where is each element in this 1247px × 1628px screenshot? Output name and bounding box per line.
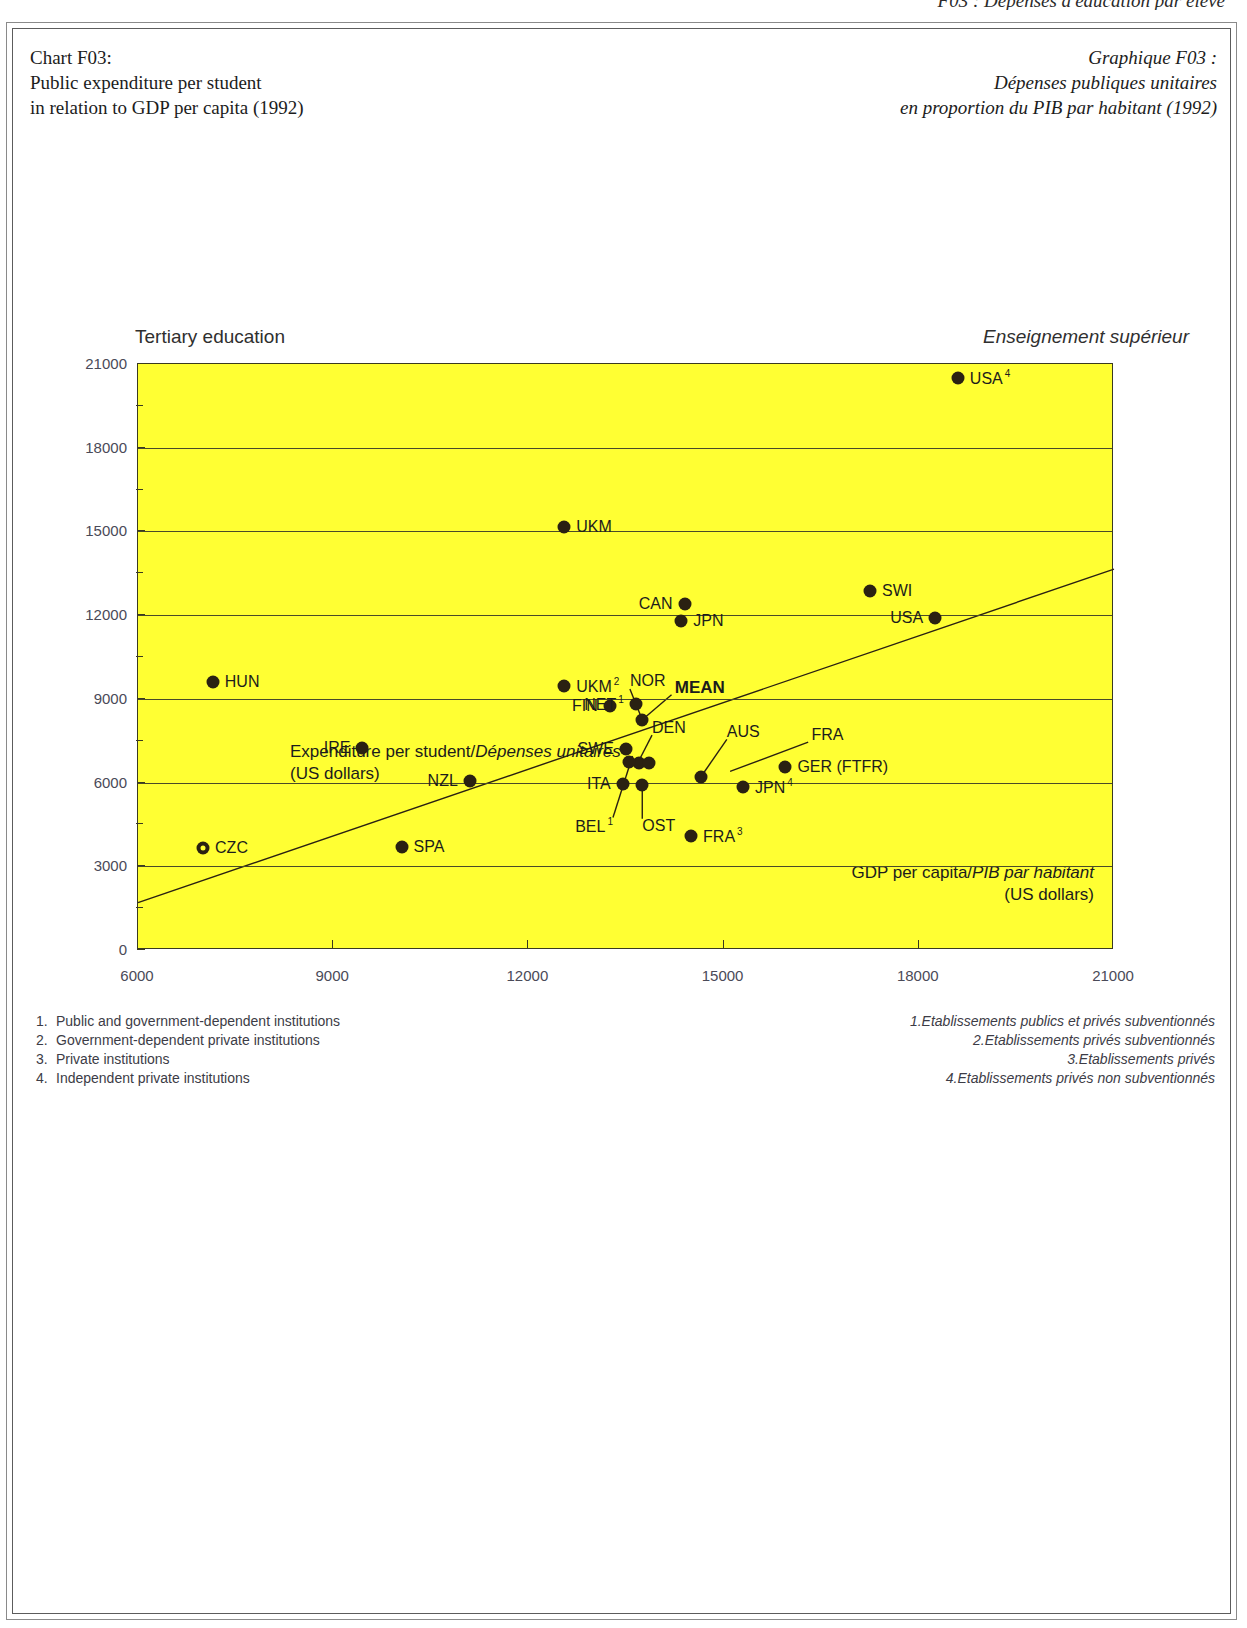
gridline-y-9000 — [138, 699, 1112, 700]
data-label-fra: FRA — [811, 726, 843, 744]
footnote-text: Government-dependent private institution… — [56, 1032, 320, 1048]
x-axis-tick-label-6000: 6000 — [120, 967, 153, 984]
y-axis-tick-6000 — [137, 782, 145, 783]
data-label-usa-4: USA4 — [970, 368, 1010, 387]
x-axis-tick-label-18000: 18000 — [897, 967, 939, 984]
footnote-number: 1. — [902, 1012, 922, 1031]
y-axis-minor-tick-13500 — [136, 572, 143, 573]
page-root: F03 : Dépenses d'éducation par élève Cha… — [0, 0, 1247, 1628]
x-axis-tick-9000 — [332, 940, 333, 949]
chart-title-fr-line-2: Dépenses publiques unitaires — [900, 70, 1217, 95]
data-label-nzl: NZL — [428, 772, 458, 790]
footnote-text: Etablissements privés non subventionnés — [957, 1070, 1215, 1086]
footnote-text: Independent private institutions — [56, 1070, 250, 1086]
data-point-ire — [356, 741, 369, 754]
chart-title-en-line-1: Chart F03: — [30, 45, 304, 70]
data-label-mean: MEAN — [675, 678, 725, 698]
data-point-jpn-4 — [737, 780, 750, 793]
data-label-czc: CZC — [215, 839, 248, 857]
footnotes-english: 1.Public and government-dependent instit… — [36, 1012, 340, 1088]
data-label-ukm-2: UKM2 — [576, 677, 619, 696]
data-label-nor: NOR — [630, 672, 666, 690]
data-label-ger-ftfr-: GER (FTFR) — [797, 758, 888, 776]
data-point-bel-1 — [623, 755, 636, 768]
footnote-item: 1.Public and government-dependent instit… — [36, 1012, 340, 1031]
data-label-ire: IRE — [324, 739, 351, 757]
footnote-item: 2.Government-dependent private instituti… — [36, 1031, 340, 1050]
data-label-swe: SWE — [578, 740, 614, 758]
chart-title-fr-line-3: en proportion du PIB par habitant (1992) — [900, 95, 1217, 120]
data-label-aus: AUS — [727, 723, 760, 741]
data-point-aus — [642, 757, 655, 770]
data-point-can — [678, 597, 691, 610]
y-axis-tick-0 — [137, 949, 145, 950]
y-axis-tick-15000 — [137, 530, 145, 531]
footnote-number: 2. — [965, 1031, 985, 1050]
x-axis-tick-label-15000: 15000 — [702, 967, 744, 984]
footnote-text: Private institutions — [56, 1051, 170, 1067]
chart-title-french: Graphique F03 : Dépenses publiques unita… — [900, 45, 1217, 120]
x-axis-caption: GDP per capita/PIB par habitant (US doll… — [851, 862, 1094, 906]
data-point-ukm — [558, 521, 571, 534]
data-point-fra — [694, 770, 707, 783]
footnote-number: 4. — [937, 1069, 957, 1088]
data-point-jpn — [675, 614, 688, 627]
data-label-ita: ITA — [587, 775, 611, 793]
x-axis-tick-15000 — [723, 940, 724, 949]
x-axis-tick-12000 — [527, 940, 528, 949]
data-point-fra-3 — [685, 829, 698, 842]
data-point-nzl — [463, 775, 476, 788]
data-point-ger-ftfr- — [779, 761, 792, 774]
running-head: F03 : Dépenses d'éducation par élève — [0, 0, 1247, 10]
gridline-y-18000 — [138, 448, 1112, 449]
x-axis-caption-units: (US dollars) — [851, 884, 1094, 906]
gridline-y-3000 — [138, 866, 1112, 867]
y-axis-minor-tick-16500 — [136, 489, 143, 490]
y-axis-minor-tick-10500 — [136, 656, 143, 657]
footnote-text: Public and government-dependent institut… — [56, 1013, 340, 1029]
data-label-hun: HUN — [225, 673, 260, 691]
chart-title-fr-line-1: Graphique F03 : — [900, 45, 1217, 70]
footnote-number: 1. — [36, 1012, 56, 1031]
footnote-text: Etablissements privés subventionnés — [985, 1032, 1215, 1048]
y-axis-tick-21000 — [137, 363, 145, 364]
data-point-spa — [395, 840, 408, 853]
footnote-item: 2.Etablissements privés subventionnés — [902, 1031, 1215, 1050]
y-axis-tick-label-18000: 18000 — [65, 438, 127, 455]
data-point-nor — [636, 713, 649, 726]
footnote-text: Etablissements publics et privés subvent… — [922, 1013, 1215, 1029]
y-axis-tick-label-6000: 6000 — [65, 773, 127, 790]
data-label-spa: SPA — [414, 838, 445, 856]
data-label-jpn: JPN — [693, 612, 723, 630]
data-label-ost: OST — [642, 817, 675, 835]
data-point-usa-4 — [951, 371, 964, 384]
scatter-plot-area: Expenditure per student/Dépenses unitair… — [137, 363, 1113, 949]
data-point-czc — [197, 842, 210, 855]
y-axis-tick-18000 — [137, 447, 145, 448]
y-axis-tick-12000 — [137, 614, 145, 615]
x-axis-tick-label-9000: 9000 — [316, 967, 349, 984]
data-label-bel-1: BEL1 — [575, 816, 613, 835]
x-axis-tick-label-21000: 21000 — [1092, 967, 1134, 984]
chart-title-english: Chart F03: Public expenditure per studen… — [30, 45, 304, 120]
footnote-number: 3. — [36, 1050, 56, 1069]
footnote-text: Etablissements privés — [1079, 1051, 1215, 1067]
data-point-ita — [616, 777, 629, 790]
y-axis-minor-tick-1500 — [136, 907, 143, 908]
footnote-number: 3. — [1059, 1050, 1079, 1069]
trendline — [138, 569, 1114, 902]
y-axis-tick-label-15000: 15000 — [65, 522, 127, 539]
footnote-item: 1.Etablissements publics et privés subve… — [902, 1012, 1215, 1031]
footnote-item: 4.Independent private institutions — [36, 1069, 340, 1088]
y-axis-tick-label-9000: 9000 — [65, 689, 127, 706]
section-heading-french: Enseignement supérieur — [983, 326, 1189, 348]
y-axis-tick-3000 — [137, 865, 145, 866]
y-axis-tick-label-21000: 21000 — [65, 355, 127, 372]
gridline-y-15000 — [138, 531, 1112, 532]
data-point-swi — [864, 585, 877, 598]
data-point-swe — [620, 743, 633, 756]
data-label-usa: USA — [890, 609, 923, 627]
y-axis-tick-label-3000: 3000 — [65, 857, 127, 874]
y-axis-tick-label-12000: 12000 — [65, 606, 127, 623]
y-axis-tick-label-0: 0 — [65, 941, 127, 958]
